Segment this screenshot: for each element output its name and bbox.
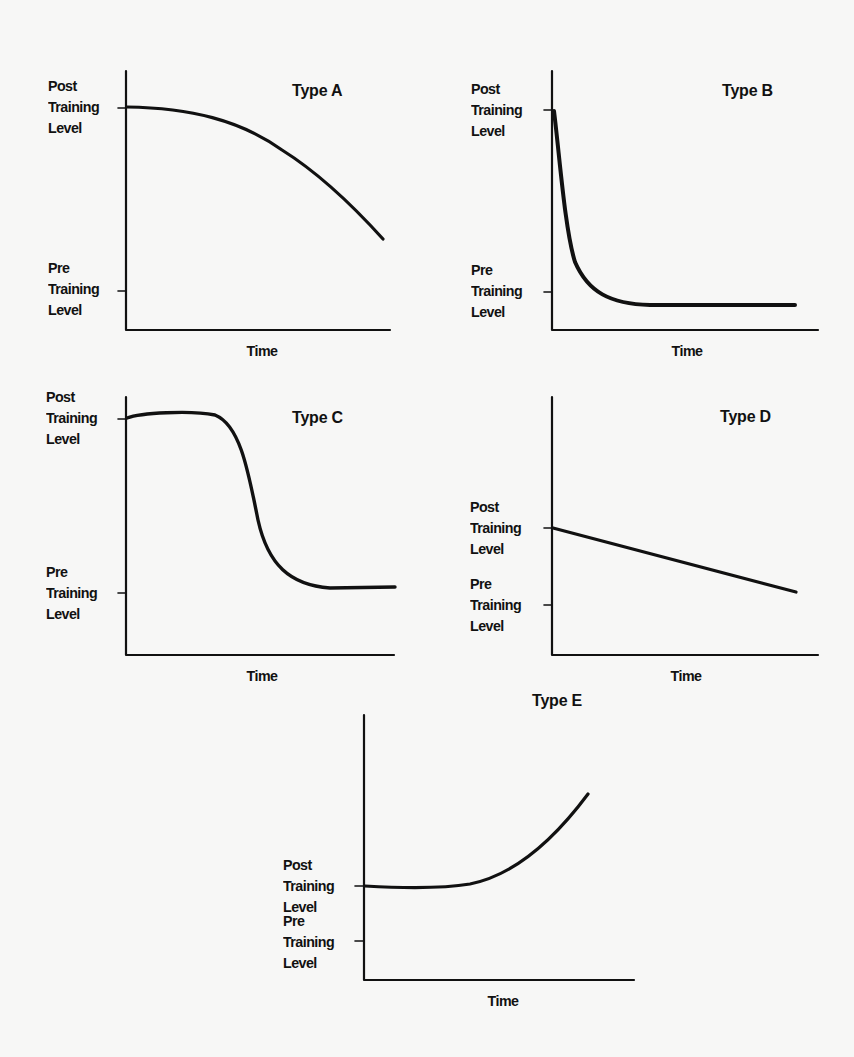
label-line: Training bbox=[470, 517, 521, 538]
chart-c-pre-label: Pre Training Level bbox=[46, 561, 97, 624]
label-line: Pre bbox=[46, 561, 97, 582]
chart-d-xlabel: Time bbox=[671, 667, 702, 685]
label-line: Level bbox=[471, 301, 522, 322]
chart-e-post-label: Post Training Level bbox=[283, 854, 334, 917]
chart-c-title: Type C bbox=[292, 409, 343, 427]
chart-a-curve bbox=[127, 107, 383, 239]
chart-d-axes bbox=[552, 397, 818, 655]
chart-c-post-label: Post Training Level bbox=[46, 386, 97, 449]
label-line: Training bbox=[283, 875, 334, 896]
chart-a-title: Type A bbox=[292, 82, 342, 100]
chart-e bbox=[355, 715, 634, 980]
label-line: Training bbox=[48, 278, 99, 299]
chart-d-pre-label: Pre Training Level bbox=[470, 573, 521, 636]
label-line: Level bbox=[470, 538, 521, 559]
label-line: Training bbox=[46, 582, 97, 603]
chart-a-post-label: Post Training Level bbox=[48, 75, 99, 138]
chart-a bbox=[118, 71, 390, 330]
chart-b-pre-label: Pre Training Level bbox=[471, 259, 522, 322]
chart-b bbox=[544, 71, 818, 330]
label-line: Level bbox=[46, 603, 97, 624]
chart-e-axes bbox=[364, 715, 634, 980]
chart-e-title: Type E bbox=[532, 692, 582, 710]
chart-b-axes bbox=[552, 71, 818, 330]
chart-b-curve bbox=[554, 111, 795, 305]
chart-b-title: Type B bbox=[722, 82, 773, 100]
chart-e-curve bbox=[365, 794, 588, 888]
chart-c bbox=[118, 397, 395, 655]
chart-c-xlabel: Time bbox=[247, 667, 278, 685]
label-line: Level bbox=[48, 299, 99, 320]
chart-d bbox=[544, 397, 818, 655]
chart-a-pre-label: Pre Training Level bbox=[48, 257, 99, 320]
label-line: Level bbox=[471, 120, 522, 141]
label-line: Post bbox=[470, 496, 521, 517]
label-line: Post bbox=[283, 854, 334, 875]
label-line: Training bbox=[46, 407, 97, 428]
chart-b-xlabel: Time bbox=[672, 342, 703, 360]
label-line: Pre bbox=[48, 257, 99, 278]
label-line: Post bbox=[48, 75, 99, 96]
label-line: Level bbox=[470, 615, 521, 636]
label-line: Training bbox=[471, 280, 522, 301]
chart-d-title: Type D bbox=[720, 408, 771, 426]
chart-b-post-label: Post Training Level bbox=[471, 78, 522, 141]
label-line: Post bbox=[471, 78, 522, 99]
chart-d-curve bbox=[553, 528, 796, 592]
chart-d-post-label: Post Training Level bbox=[470, 496, 521, 559]
label-line: Level bbox=[48, 117, 99, 138]
label-line: Training bbox=[283, 931, 334, 952]
label-line: Pre bbox=[283, 910, 334, 931]
label-line: Pre bbox=[471, 259, 522, 280]
chart-a-xlabel: Time bbox=[247, 342, 278, 360]
chart-e-xlabel: Time bbox=[488, 992, 519, 1010]
label-line: Level bbox=[283, 952, 334, 973]
label-line: Post bbox=[46, 386, 97, 407]
label-line: Training bbox=[48, 96, 99, 117]
label-line: Level bbox=[46, 428, 97, 449]
chart-c-curve bbox=[127, 412, 395, 588]
chart-e-pre-label: Pre Training Level bbox=[283, 910, 334, 973]
plots-canvas bbox=[0, 0, 854, 1057]
figure-page: Post Training Level Pre Training Level T… bbox=[0, 0, 854, 1057]
label-line: Pre bbox=[470, 573, 521, 594]
label-line: Training bbox=[471, 99, 522, 120]
label-line: Training bbox=[470, 594, 521, 615]
